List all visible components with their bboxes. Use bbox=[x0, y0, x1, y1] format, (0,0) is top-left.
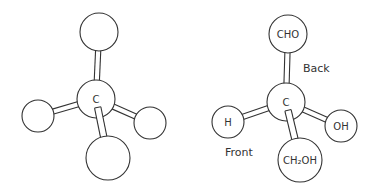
atom-left: H bbox=[212, 106, 244, 138]
bond-top bbox=[94, 48, 101, 83]
atom-right bbox=[134, 107, 166, 139]
atom-left bbox=[22, 100, 54, 132]
atom-top-label: CHO bbox=[277, 29, 300, 40]
atom-bottom: CH₂OH bbox=[278, 138, 322, 182]
model-glyceraldehyde: CHOHOHCCH₂OHBackFront bbox=[212, 15, 357, 182]
model-generic-tetrahedral-carbon: C bbox=[22, 13, 166, 180]
atom-bottom-label: CH₂OH bbox=[283, 155, 317, 166]
annotation-back: Back bbox=[303, 62, 330, 75]
diagram-canvas: CCHOHOHCCH₂OHBackFront bbox=[0, 0, 382, 191]
atoms: C bbox=[22, 13, 166, 180]
atom-top: CHO bbox=[269, 15, 307, 53]
atom-right: OH bbox=[325, 110, 357, 142]
atom-right-label: OH bbox=[333, 121, 348, 132]
annotation-front: Front bbox=[225, 146, 254, 159]
atom-center-carbon-label: C bbox=[93, 94, 100, 105]
bond-left bbox=[239, 105, 271, 120]
atom-top bbox=[80, 13, 118, 51]
molecule-diagram: CCHOHOHCCH₂OHBackFront bbox=[0, 0, 382, 191]
atom-left-label: H bbox=[224, 117, 232, 128]
atom-center-carbon-label: C bbox=[283, 97, 290, 108]
atom-bottom bbox=[86, 136, 130, 180]
bond-top bbox=[284, 50, 290, 86]
bond-left bbox=[50, 101, 82, 115]
